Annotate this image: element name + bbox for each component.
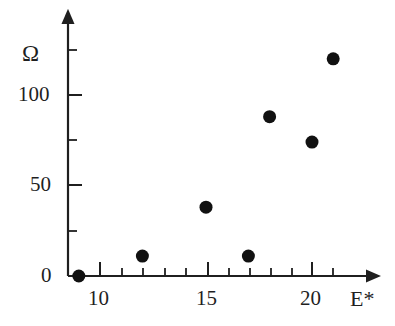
data-point xyxy=(306,136,319,149)
plot-canvas xyxy=(0,0,395,326)
data-point xyxy=(200,201,213,214)
y-tick-label-100: 100 xyxy=(18,84,50,105)
x-axis-minor-ticks xyxy=(122,268,333,276)
y-axis-minor-ticks xyxy=(68,50,77,231)
data-point xyxy=(263,110,276,123)
y-axis-title: Ω xyxy=(22,42,39,65)
data-point xyxy=(72,270,85,283)
scatter-plot-figure: Ω 100 50 0 10 15 20 E* xyxy=(0,0,395,326)
data-point xyxy=(136,250,149,263)
x-axis-major-ticks xyxy=(100,262,312,276)
y-tick-label-50: 50 xyxy=(30,174,51,195)
x-tick-label-20: 20 xyxy=(300,288,321,309)
x-axis-title: E* xyxy=(350,288,374,310)
x-tick-label-10: 10 xyxy=(88,288,109,309)
y-tick-label-0: 0 xyxy=(41,265,52,286)
data-point-group xyxy=(72,52,339,282)
x-tick-label-15: 15 xyxy=(196,288,217,309)
data-point xyxy=(327,52,340,65)
data-point xyxy=(242,250,255,263)
